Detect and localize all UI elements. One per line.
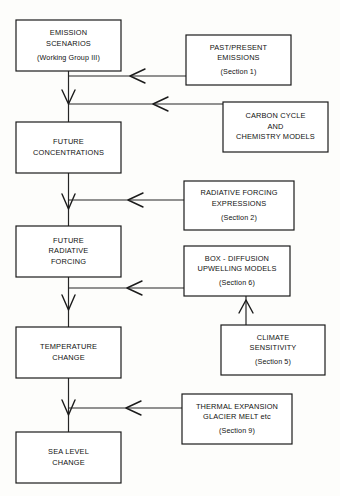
box-label-line: CLIMATE <box>257 333 290 342</box>
box-label-line: SEA LEVEL <box>48 447 89 456</box>
box-section-note: (Section 9) <box>219 426 255 435</box>
flow-box-future-radiative-forcing[interactable]: FUTURERADIATIVEFORCING <box>16 226 121 277</box>
flow-box-climate-sensitivity[interactable]: CLIMATESENSITIVITY(Section 5) <box>221 325 325 375</box>
box-section-note: (Section 2) <box>221 213 257 222</box>
box-label-line: CHEMISTRY MODELS <box>236 132 315 141</box>
box-label-line: RADIATIVE <box>49 246 89 255</box>
box-label-line: EMISSION <box>50 28 87 37</box>
box-label-line: UPWELLING MODELS <box>197 264 276 273</box>
climate-model-flowchart: EMISSIONSCENARIOS(Working Group III)PAST… <box>0 0 340 496</box>
box-label-line: AND <box>267 122 283 131</box>
box-label-line: EMISSIONS <box>217 53 259 62</box>
box-section-note: (Section 1) <box>221 67 257 76</box>
flow-box-sea-level-change[interactable]: SEA LEVELCHANGE <box>16 432 121 483</box>
box-layer: EMISSIONSCENARIOS(Working Group III)PAST… <box>16 20 328 483</box>
box-label-line: CHANGE <box>52 458 85 467</box>
box-label-line: GLACIER MELT etc <box>203 412 271 421</box>
box-label-line: BOX - DIFFUSION <box>205 254 269 263</box>
box-label-line: FUTURE <box>53 137 84 146</box>
box-label-line: EXPRESSIONS <box>212 199 267 208</box>
box-section-note: (Working Group III) <box>37 53 100 62</box>
box-section-note: (Section 6) <box>219 278 255 287</box>
flow-box-past-present-emissions[interactable]: PAST/PRESENTEMISSIONS(Section 1) <box>186 35 291 85</box>
box-label-line: FORCING <box>51 257 86 266</box>
box-label-line: CONCENTRATIONS <box>33 148 104 157</box>
box-label-line: FUTURE <box>53 236 84 245</box>
box-label-line: PAST/PRESENT <box>210 43 268 52</box>
flow-box-emission-scenarios[interactable]: EMISSIONSCENARIOS(Working Group III) <box>16 20 121 71</box>
box-section-note: (Section 5) <box>255 357 291 366</box>
box-label-line: SENSITIVITY <box>250 343 297 352</box>
box-label-line: RADIATIVE FORCING <box>200 188 277 197</box>
box-label-line: CHANGE <box>52 353 85 362</box>
flow-box-radiative-forcing-expressions[interactable]: RADIATIVE FORCINGEXPRESSIONS(Section 2) <box>184 181 294 230</box>
flowchart-canvas: EMISSIONSCENARIOS(Working Group III)PAST… <box>0 0 340 496</box>
box-label-line: CARBON CYCLE <box>245 111 305 120</box>
box-label-line: SCENARIOS <box>46 39 91 48</box>
box-label-line: TEMPERATURE <box>40 342 97 351</box>
flow-box-thermal-expansion-glacier-melt[interactable]: THERMAL EXPANSIONGLACIER MELT etc(Sectio… <box>182 394 292 444</box>
flow-box-temperature-change[interactable]: TEMPERATURECHANGE <box>16 327 121 378</box>
flow-box-future-concentrations[interactable]: FUTURECONCENTRATIONS <box>16 122 121 173</box>
box-label-line: THERMAL EXPANSION <box>196 402 278 411</box>
flow-box-box-diffusion-upwelling-models[interactable]: BOX - DIFFUSIONUPWELLING MODELS(Section … <box>184 246 290 296</box>
flow-box-carbon-cycle-chemistry-models[interactable]: CARBON CYCLEANDCHEMISTRY MODELS <box>223 102 328 152</box>
